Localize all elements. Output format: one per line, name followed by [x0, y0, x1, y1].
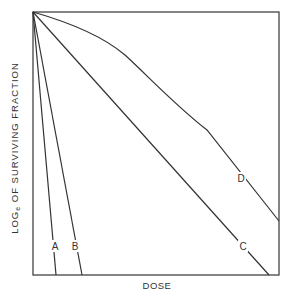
- curve-d: [33, 12, 279, 221]
- curve-a: [33, 12, 56, 275]
- curve-b: [33, 12, 82, 275]
- plot-frame: [33, 12, 279, 275]
- y-axis-label-rest: OF SURVIVING FRACTION: [9, 62, 20, 206]
- y-axis-label-subscript: e: [14, 206, 21, 211]
- curve-label-d: D: [237, 173, 244, 184]
- y-axis-label: LOGe OF SURVIVING FRACTION: [9, 62, 22, 234]
- curve-label-c: C: [239, 241, 246, 252]
- curve-c: [33, 12, 269, 275]
- x-axis-label: DOSE: [143, 280, 172, 291]
- survival-curve-chart: A B C D: [0, 0, 287, 299]
- curve-label-a: A: [52, 241, 59, 252]
- y-axis-label-log: LOG: [9, 211, 20, 234]
- curve-label-b: B: [72, 241, 79, 252]
